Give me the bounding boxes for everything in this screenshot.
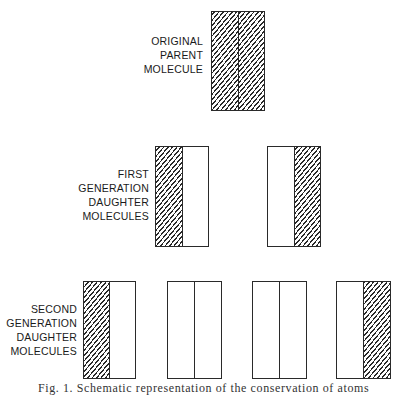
new-strand bbox=[253, 282, 279, 378]
label-line: MOLECULES bbox=[60, 209, 149, 223]
new-strand bbox=[268, 147, 294, 246]
new-strand bbox=[337, 282, 363, 378]
label-line: FIRST bbox=[60, 167, 149, 181]
label-original-parent-molecule: ORIGINAL PARENT MOLECULE bbox=[120, 34, 203, 76]
new-strand bbox=[194, 282, 221, 378]
parent-strand-right bbox=[238, 12, 265, 110]
label-line: MOLECULES bbox=[0, 344, 77, 358]
second-gen-molecule-4 bbox=[336, 281, 391, 379]
new-strand bbox=[182, 147, 209, 246]
label-first-generation-daughter-molecules: FIRST GENERATION DAUGHTER MOLECULES bbox=[60, 167, 149, 223]
new-strand bbox=[109, 282, 135, 378]
parent-strand bbox=[156, 147, 182, 246]
label-line: MOLECULE bbox=[120, 62, 203, 76]
label-line: GENERATION bbox=[0, 316, 77, 330]
label-line: GENERATION bbox=[60, 181, 149, 195]
label-line: PARENT bbox=[120, 48, 203, 62]
new-strand bbox=[168, 282, 194, 378]
first-gen-molecule-1 bbox=[155, 146, 209, 247]
parent-molecule bbox=[211, 11, 265, 111]
new-strand bbox=[279, 282, 306, 378]
second-gen-molecule-1 bbox=[83, 281, 136, 379]
label-line: DAUGHTER bbox=[0, 330, 77, 344]
parent-strand-left bbox=[212, 12, 238, 110]
label-line: DAUGHTER bbox=[60, 195, 149, 209]
second-gen-molecule-3 bbox=[252, 281, 307, 379]
first-gen-molecule-2 bbox=[267, 146, 321, 247]
second-gen-molecule-2 bbox=[167, 281, 222, 379]
label-line: SECOND bbox=[0, 302, 77, 316]
label-line: ORIGINAL bbox=[120, 34, 203, 48]
label-second-generation-daughter-molecules: SECOND GENERATION DAUGHTER MOLECULES bbox=[0, 302, 77, 358]
parent-strand bbox=[84, 282, 109, 378]
parent-strand bbox=[294, 147, 321, 246]
figure-caption: Fig. 1. Schematic representation of the … bbox=[38, 381, 369, 396]
parent-strand bbox=[363, 282, 390, 378]
